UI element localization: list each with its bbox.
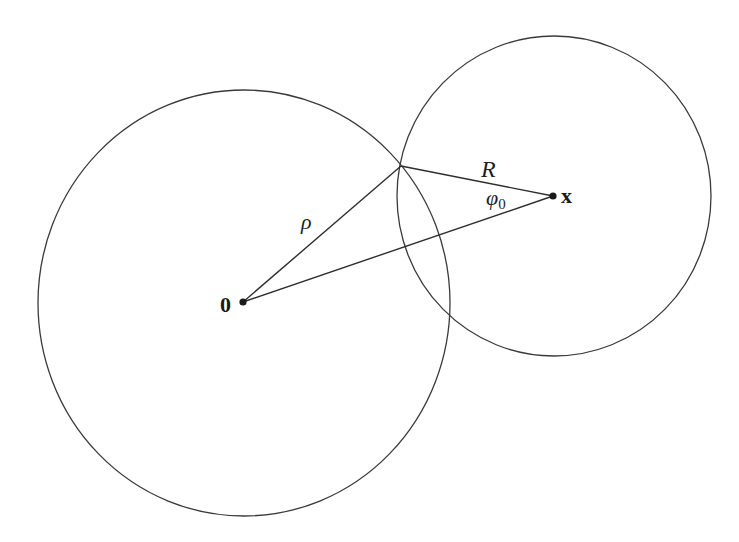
R-label: R	[480, 156, 496, 182]
x-label: x	[561, 183, 572, 208]
phi-symbol: φ	[486, 185, 498, 210]
origin-point	[239, 298, 246, 305]
rho-label: ρ	[300, 209, 312, 234]
geometry-diagram: 0 x ρ R φ0	[0, 0, 739, 542]
x-point	[549, 192, 556, 199]
origin-label: 0	[220, 292, 231, 317]
rho-segment	[243, 166, 401, 302]
phi-label: φ0	[486, 185, 506, 212]
phi-subscript: 0	[498, 196, 506, 212]
R-segment	[401, 166, 553, 196]
